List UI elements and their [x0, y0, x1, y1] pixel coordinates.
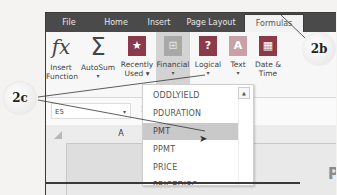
tab-formulas[interactable]: Formulas: [244, 14, 304, 33]
financial-functions-dropdown: ODDLYIELD PDURATION PMT PPMT PRICE PRICE…: [142, 84, 254, 186]
function-fx-icon: fx: [46, 35, 76, 59]
insert-function-label-2: Function: [46, 72, 76, 81]
text-a-icon: A: [229, 36, 247, 56]
date-time-label-1: Date &: [252, 60, 284, 69]
chevron-down-icon: ▾: [156, 69, 190, 76]
sigma-icon: Σ: [79, 35, 117, 59]
mouse-cursor-icon: ➤: [199, 133, 207, 144]
autosum-button[interactable]: Σ AutoSum ▾: [79, 32, 117, 97]
tab-page-layout[interactable]: Page Layout: [181, 13, 241, 32]
insert-function-button[interactable]: fx Insert Function: [46, 32, 76, 97]
row-header: 1: [46, 143, 67, 195]
dropdown-item-oddlyield[interactable]: ODDLYIELD: [143, 87, 245, 104]
dropdown-item-price[interactable]: PRICE: [143, 159, 245, 176]
callout-2b: 2b: [303, 33, 335, 65]
chevron-down-icon: ▾: [79, 72, 117, 79]
callout-2c: 2c: [4, 82, 36, 114]
autosum-label: AutoSum: [79, 63, 117, 72]
tab-insert[interactable]: Insert: [141, 13, 177, 32]
select-all-icon[interactable]: [54, 131, 62, 139]
logical-label: Logical: [192, 60, 224, 69]
chevron-down-icon[interactable]: ▾: [123, 104, 126, 120]
financial-label: Financial: [156, 60, 190, 69]
date-time-button[interactable]: ▦ Date & Time: [252, 32, 284, 97]
date-time-label-2: Time: [252, 69, 284, 78]
star-book-icon: ★: [128, 36, 146, 56]
tab-file[interactable]: File: [54, 13, 84, 32]
name-box[interactable]: E5 ▾: [51, 103, 131, 119]
tab-home[interactable]: Home: [98, 13, 134, 32]
dropdown-item-pduration[interactable]: PDURATION: [143, 105, 245, 122]
recently-used-label-1: Recently: [119, 60, 155, 69]
dropdown-item-pmt[interactable]: PMT: [143, 123, 245, 140]
cell-text-fragment: P: [328, 165, 336, 183]
scroll-up-icon[interactable]: ▲: [238, 87, 250, 99]
insert-function-label-1: Insert: [46, 63, 76, 72]
chevron-down-icon: ▾: [192, 69, 224, 76]
dropdown-item-ppmt[interactable]: PPMT: [143, 141, 245, 158]
text-label: Text: [226, 60, 250, 69]
chevron-down-icon: ▾: [226, 69, 250, 76]
dropdown-scrollbar[interactable]: [238, 99, 251, 185]
ribbon-tab-bar: File Home Insert Page Layout Formulas: [46, 13, 336, 32]
row-number-1[interactable]: 1: [48, 194, 52, 195]
name-box-value: E5: [55, 108, 64, 116]
calendar-icon: ▦: [259, 36, 277, 56]
financial-book-icon: ⊞: [164, 36, 182, 56]
recently-used-label-2: Used ▾: [119, 69, 155, 78]
question-book-icon: ?: [199, 36, 217, 56]
frame-bottom-border: [45, 182, 300, 184]
